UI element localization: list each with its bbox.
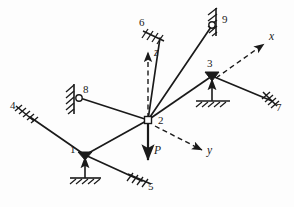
- truss-diagram-figure: 1 2 3 4 5 6 7 8 9 z y x P: [0, 0, 294, 207]
- x-axis-label: x: [269, 31, 274, 43]
- joint-node-2: [145, 117, 152, 124]
- diagram-canvas: [0, 0, 294, 207]
- support-node-4: [15, 105, 38, 123]
- support-node-8: [66, 84, 74, 114]
- node-label-2: 2: [158, 115, 164, 126]
- applied-load-label: P: [154, 145, 161, 157]
- node-label-4: 4: [10, 100, 16, 111]
- node-label-3: 3: [207, 58, 213, 69]
- member-1-2: [85, 120, 148, 155]
- node-label-8: 8: [83, 84, 89, 95]
- member-9-2: [148, 27, 211, 120]
- x-axis-line: [216, 44, 264, 78]
- node-label-7: 7: [276, 102, 282, 113]
- y-axis-line: [155, 126, 202, 150]
- member-4-1: [30, 117, 85, 155]
- joint-node-8: [76, 95, 82, 101]
- node-label-1: 1: [70, 144, 76, 155]
- member-3-7: [212, 76, 272, 101]
- z-axis-label: z: [154, 47, 158, 59]
- node-label-6: 6: [139, 17, 145, 28]
- joint-node-9: [209, 22, 215, 28]
- joint-node-1: [78, 152, 92, 160]
- y-axis-label: y: [207, 145, 212, 157]
- node-label-9: 9: [222, 14, 228, 25]
- support-node-6: [142, 29, 164, 44]
- member-8-2: [80, 98, 148, 120]
- node-label-5: 5: [148, 181, 154, 192]
